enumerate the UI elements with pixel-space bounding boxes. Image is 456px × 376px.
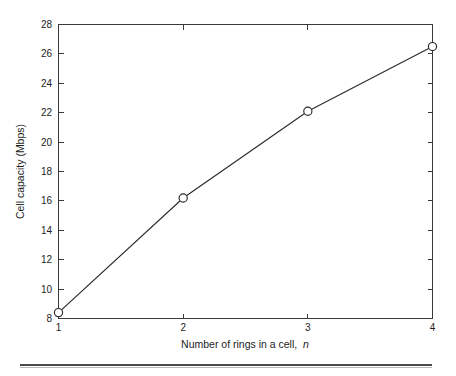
- y-tick-label: 10: [41, 284, 53, 295]
- x-axis-title-variable: n: [303, 338, 309, 350]
- data-point-marker: [428, 42, 436, 50]
- y-tick-label: 22: [41, 107, 53, 118]
- x-tick-label: 3: [305, 322, 311, 333]
- y-axis-title: Cell capacity (Mbps): [14, 124, 26, 219]
- y-tick-label: 20: [41, 137, 53, 148]
- line-chart: 8 10 12 14 16 18 20: [0, 0, 456, 376]
- y-tick-label: 28: [41, 19, 53, 30]
- data-point-marker: [179, 194, 187, 202]
- x-tick-label: 4: [430, 322, 436, 333]
- y-tick-label: 8: [46, 313, 52, 324]
- y-tick-label: 24: [41, 78, 53, 89]
- x-tick-label: 2: [180, 322, 186, 333]
- y-tick-label: 18: [41, 166, 53, 177]
- x-tick-label: 1: [56, 322, 62, 333]
- y-tick-label: 16: [41, 195, 53, 206]
- y-tick-label: 12: [41, 254, 53, 265]
- chart-background: [0, 0, 456, 376]
- x-axis-title-text: Number of rings in a cell,: [181, 338, 297, 350]
- figure-container: 8 10 12 14 16 18 20: [0, 0, 456, 376]
- y-tick-label: 14: [41, 225, 53, 236]
- data-point-marker: [304, 107, 312, 115]
- data-point-marker: [54, 309, 62, 317]
- x-axis-title: Number of rings in a cell, n: [181, 338, 309, 350]
- y-tick-label: 26: [41, 48, 53, 59]
